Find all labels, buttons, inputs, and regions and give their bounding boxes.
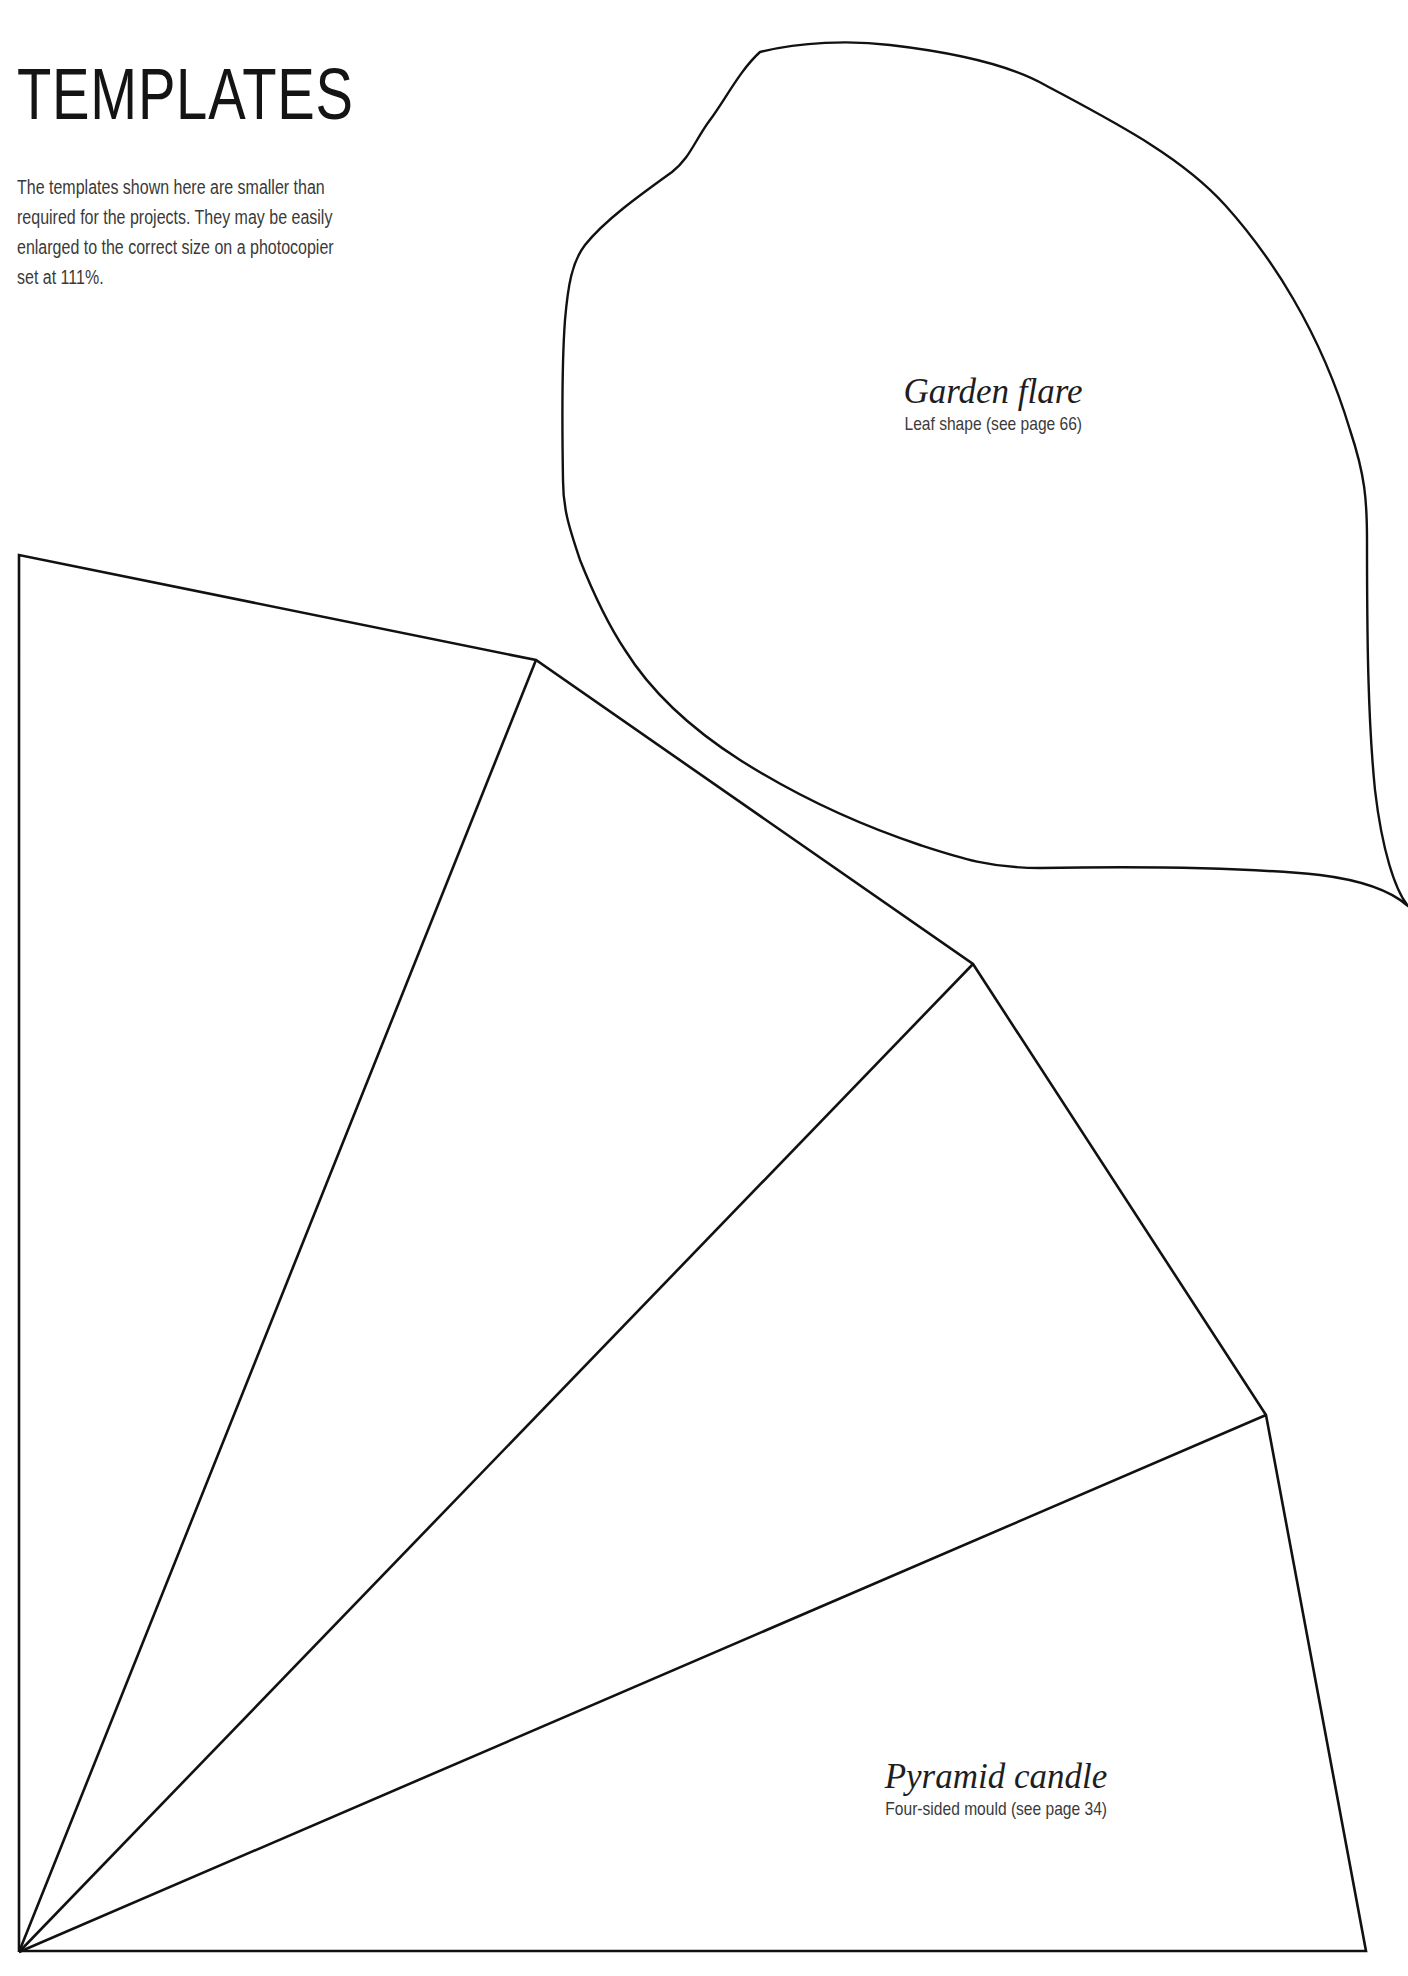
fold-line-3	[19, 1415, 1266, 1952]
templates-page: TEMPLATES The templates shown here are s…	[0, 0, 1408, 1976]
template-caption: Four-sided mould (see page 34)	[885, 1797, 1107, 1822]
intro-line: set at 111%.	[17, 266, 104, 288]
pyramid-net-outline	[19, 555, 1366, 1952]
garden-flare-label: Garden flare Leaf shape (see page 66)	[843, 372, 1143, 437]
fold-line-1	[19, 660, 536, 1952]
template-caption: Leaf shape (see page 66)	[904, 412, 1082, 437]
page-title: TEMPLATES	[17, 58, 354, 130]
template-name: Pyramid candle	[826, 1757, 1166, 1797]
pyramid-candle-label: Pyramid candle Four-sided mould (see pag…	[826, 1757, 1166, 1822]
intro-text: The templates shown here are smaller tha…	[17, 172, 385, 292]
intro-line: enlarged to the correct size on a photoc…	[17, 236, 334, 258]
template-outlines	[0, 0, 1408, 1976]
intro-line: The templates shown here are smaller tha…	[17, 176, 325, 198]
template-name: Garden flare	[843, 372, 1143, 412]
intro-line: required for the projects. They may be e…	[17, 206, 332, 228]
leaf-shape-outline	[562, 42, 1408, 906]
